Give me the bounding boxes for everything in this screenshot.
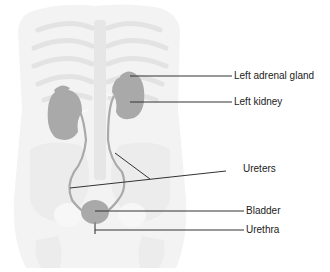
label-urethra: Urethra — [246, 224, 279, 236]
label-ureters: Ureters — [243, 163, 276, 175]
left-kidney — [112, 74, 144, 119]
bladder-shape — [81, 200, 109, 224]
label-left-kidney: Left kidney — [234, 96, 282, 108]
urinary-system-diagram: Left adrenal gland Left kidney Ureters B… — [0, 0, 330, 272]
label-bladder: Bladder — [246, 205, 280, 217]
anatomy-illustration — [0, 0, 330, 272]
right-kidney — [48, 90, 82, 140]
urethra-shape — [94, 222, 96, 234]
label-left-adrenal-gland: Left adrenal gland — [234, 70, 314, 82]
